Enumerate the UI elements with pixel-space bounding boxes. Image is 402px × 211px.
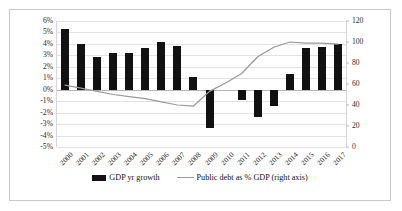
- left-axis-tick-label: 3%: [43, 52, 53, 60]
- gridline: [57, 44, 346, 45]
- right-axis-tick-mark: [346, 21, 349, 22]
- right-axis-tick-label: 20: [352, 122, 360, 130]
- gridline: [57, 101, 346, 102]
- bar: [302, 48, 310, 89]
- right-axis-tick-mark: [346, 126, 349, 127]
- bar: [157, 42, 165, 90]
- left-axis-tick-label: 1%: [43, 74, 53, 82]
- right-axis-tick-mark: [346, 147, 349, 148]
- left-axis-tick-label: 2%: [43, 63, 53, 71]
- chart-frame: 6%5%4%3%2%1%0%-1%-2%-3%-4%-5% 1201008060…: [9, 9, 391, 201]
- gridline: [57, 124, 346, 125]
- right-axis-tick-mark: [346, 105, 349, 106]
- right-axis-tick-label: 0: [352, 143, 356, 151]
- left-axis-tick-label: 6%: [43, 17, 53, 25]
- bar: [334, 44, 342, 90]
- gridline: [57, 147, 346, 148]
- left-axis-tick-label: 5%: [43, 29, 53, 37]
- legend-line-swatch-icon: [177, 177, 194, 178]
- left-axis-line: [56, 21, 57, 147]
- right-axis-tick-label: 40: [352, 101, 360, 109]
- plot-area: 6%5%4%3%2%1%0%-1%-2%-3%-4%-5% 1201008060…: [57, 21, 346, 147]
- left-axis-tick-label: -4%: [40, 132, 53, 140]
- legend-item-gdp-yr-growth: GDP yr growth: [92, 173, 159, 182]
- left-axis-tick-label: -3%: [40, 120, 53, 128]
- bar: [109, 53, 117, 90]
- bar: [270, 90, 278, 106]
- right-axis-tick-label: 60: [352, 80, 360, 88]
- left-axis-tick-label: -5%: [40, 143, 53, 151]
- bar: [189, 77, 197, 90]
- bar: [286, 74, 294, 90]
- bar: [206, 90, 214, 128]
- bar: [238, 90, 246, 100]
- bar: [254, 90, 262, 117]
- right-axis-tick-label: 80: [352, 59, 360, 67]
- legend-label-gdp-yr-growth: GDP yr growth: [109, 173, 159, 182]
- legend-item-public-debt: Public debt as % GDP (right axis): [177, 173, 308, 182]
- right-axis-tick-mark: [346, 42, 349, 43]
- bar: [318, 47, 326, 89]
- gridline: [57, 136, 346, 137]
- legend-label-public-debt: Public debt as % GDP (right axis): [197, 173, 308, 182]
- bar: [93, 57, 101, 90]
- bar: [173, 46, 181, 90]
- bar: [125, 53, 133, 90]
- left-axis-tick-label: 0%: [43, 86, 53, 94]
- gridline: [57, 90, 346, 91]
- bar: [141, 48, 149, 89]
- bar: [61, 29, 69, 90]
- bar: [77, 44, 85, 90]
- left-axis-tick-label: -1%: [40, 97, 53, 105]
- gridline: [57, 32, 346, 33]
- right-axis-tick-mark: [346, 63, 349, 64]
- chart-legend: GDP yr growth Public debt as % GDP (righ…: [10, 173, 390, 182]
- gridline: [57, 113, 346, 114]
- right-axis-tick-label: 120: [352, 17, 363, 25]
- right-axis-tick-label: 100: [352, 38, 363, 46]
- left-axis-tick-label: -2%: [40, 109, 53, 117]
- legend-bar-swatch-icon: [92, 175, 106, 181]
- left-axis-tick-label: 4%: [43, 40, 53, 48]
- right-axis-tick-mark: [346, 84, 349, 85]
- gridline: [57, 21, 346, 22]
